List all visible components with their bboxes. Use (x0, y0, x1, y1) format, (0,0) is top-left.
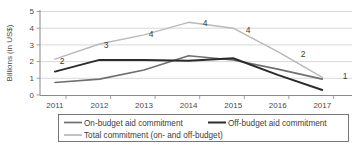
data-label: 4 (246, 25, 251, 35)
y-tick-label: 1 (30, 74, 35, 83)
y-tick-label: 4 (30, 24, 35, 33)
y-tick-label: 0 (30, 91, 35, 100)
data-label: 2 (60, 56, 65, 66)
data-label: 4 (203, 18, 208, 28)
data-label: 3 (104, 40, 109, 50)
x-tick-label: 2013 (135, 101, 153, 110)
x-tick-label: 2014 (180, 101, 198, 110)
legend-item-off-budget[interactable]: Off-budget aid commitment (208, 119, 327, 128)
legend-label: On-budget aid commitment (84, 119, 183, 128)
x-tick-label: 2015 (224, 101, 242, 110)
legend-label: Total commitment (on- and off-budget) (84, 131, 223, 140)
y-tick-label: 3 (30, 41, 35, 50)
x-tick-label: 2012 (91, 101, 109, 110)
y-axis-title: Billions (in US$) (5, 24, 14, 81)
legend-label: Off-budget aid commitment (228, 119, 327, 128)
x-axis: 2011 2012 2013 2014 2015 2016 2017 (40, 96, 352, 111)
series-group (55, 22, 322, 90)
series-line-total (55, 22, 322, 77)
data-labels-group: 2 3 4 4 4 2 1 (60, 18, 348, 81)
series-line-off-budget (55, 58, 322, 90)
legend-item-total[interactable]: Total commitment (on- and off-budget) (64, 131, 223, 140)
data-label: 4 (149, 29, 154, 39)
line-chart: 5 4 3 2 1 0 Billions (in US$) 2011 2012 … (0, 0, 361, 158)
legend: On-budget aid commitment Off-budget aid … (59, 115, 349, 142)
data-label: 1 (343, 71, 348, 81)
x-tick-label: 2017 (313, 101, 331, 110)
y-tick-label: 2 (30, 57, 35, 66)
x-tick-label: 2011 (46, 101, 64, 110)
legend-item-on-budget[interactable]: On-budget aid commitment (64, 119, 183, 128)
y-axis: 5 4 3 2 1 0 Billions (in US$) (5, 7, 40, 100)
y-tick-label: 5 (30, 7, 35, 16)
data-label: 2 (301, 49, 306, 59)
x-tick-label: 2016 (269, 101, 287, 110)
